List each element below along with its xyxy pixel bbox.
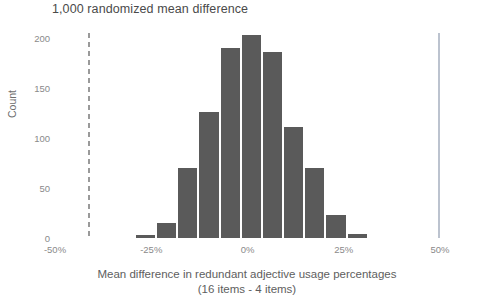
y-axis-tick-label: 200 [34, 33, 50, 44]
y-axis-label: Count [6, 90, 18, 118]
histogram-bar [220, 48, 241, 238]
y-axis: 050100150200 [0, 33, 50, 238]
x-axis: -50%-25%0%25%50% [0, 240, 494, 260]
histogram-bar [177, 168, 198, 238]
histogram-bar [156, 223, 177, 238]
plot-area [55, 33, 440, 238]
histogram-chart: 1,000 randomized mean difference 0501001… [0, 0, 494, 304]
x-axis-tick-label: -50% [44, 244, 66, 255]
x-axis-tick-label: 25% [334, 244, 353, 255]
histogram-bar [304, 168, 325, 238]
histogram-bar [325, 215, 346, 238]
histogram-bar [347, 234, 368, 238]
x-axis-tick-label: 50% [430, 244, 449, 255]
y-axis-tick-label: 100 [34, 133, 50, 144]
histogram-bar [198, 112, 219, 238]
page-title: 1,000 randomized mean difference [52, 2, 248, 16]
y-axis-tick-label: 150 [34, 83, 50, 94]
x-axis-label-line2: (16 items - 4 items) [0, 283, 494, 295]
x-axis-tick-label: 0% [241, 244, 255, 255]
histogram-bar [283, 127, 304, 238]
x-axis-tick-label: -25% [140, 244, 162, 255]
reference-line-dashed [88, 33, 91, 238]
histogram-bar [241, 35, 262, 238]
x-axis-label: Mean difference in redundant adjective u… [0, 268, 494, 280]
histogram-bar [262, 52, 283, 238]
observed-value-line [438, 33, 440, 238]
histogram-bar [135, 235, 156, 238]
y-axis-tick-label: 50 [39, 183, 50, 194]
